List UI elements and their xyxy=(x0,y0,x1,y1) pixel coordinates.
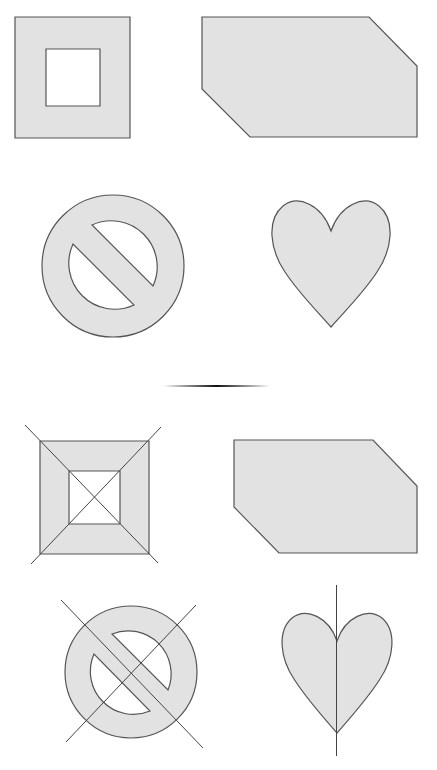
framed-square-bottom xyxy=(25,425,161,564)
heart-top xyxy=(272,201,390,327)
prohibition-sign-bottom xyxy=(61,600,203,748)
hexagon-top xyxy=(202,17,417,137)
heart-bottom xyxy=(282,585,392,756)
framed-square-top xyxy=(15,17,130,138)
hexagon-bottom xyxy=(234,440,417,553)
prohibition-sign-top xyxy=(42,195,184,337)
divider-line xyxy=(163,385,270,387)
shapes-canvas xyxy=(0,0,437,770)
